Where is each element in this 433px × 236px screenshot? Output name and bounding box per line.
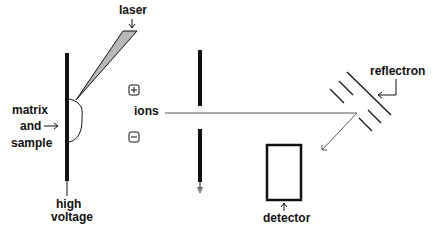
detector-box — [267, 145, 301, 200]
matrix-sample-blob — [69, 99, 82, 142]
maldi-tof-diagram: laser matrix and sample high voltage ion… — [0, 0, 433, 236]
reflected-ion-path — [322, 113, 357, 150]
sample-plate — [65, 53, 69, 181]
sample-label: sample — [11, 137, 52, 150]
and-label: and — [20, 120, 41, 133]
reflectron-label: reflectron — [370, 65, 425, 78]
laser-beam — [76, 31, 137, 100]
laser-label: laser — [119, 4, 147, 17]
extraction-plate-bottom — [198, 129, 202, 182]
ground-icon — [197, 188, 203, 192]
reflectron-plates — [330, 72, 391, 131]
voltage-label: voltage — [51, 211, 93, 224]
extraction-plate-top — [198, 50, 202, 106]
detector-label: detector — [263, 212, 310, 225]
ions-label: ions — [134, 105, 159, 118]
matrix-label: matrix — [12, 104, 48, 117]
